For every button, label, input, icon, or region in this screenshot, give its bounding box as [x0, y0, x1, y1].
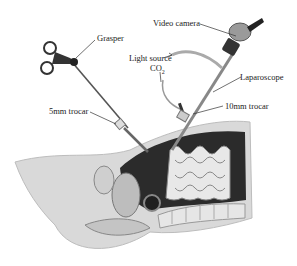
label-10mm-trocar: 10mm trocar	[225, 102, 269, 111]
organ-rectum	[144, 195, 160, 211]
label-video-camera: Video camera	[153, 19, 200, 28]
label-grasper: Grasper	[97, 34, 124, 43]
co2-subscript: 2	[162, 69, 165, 75]
organ-uterus	[112, 173, 140, 217]
co2-text: CO	[150, 63, 162, 73]
label-light-source: Light source	[129, 54, 172, 63]
label-5mm-trocar: 5mm trocar	[49, 107, 88, 116]
illustration	[0, 0, 297, 266]
intestines	[166, 146, 230, 200]
label-laparoscope: Laparoscope	[240, 73, 283, 82]
label-co2: CO2	[150, 64, 165, 75]
organ-bladder	[94, 166, 114, 194]
